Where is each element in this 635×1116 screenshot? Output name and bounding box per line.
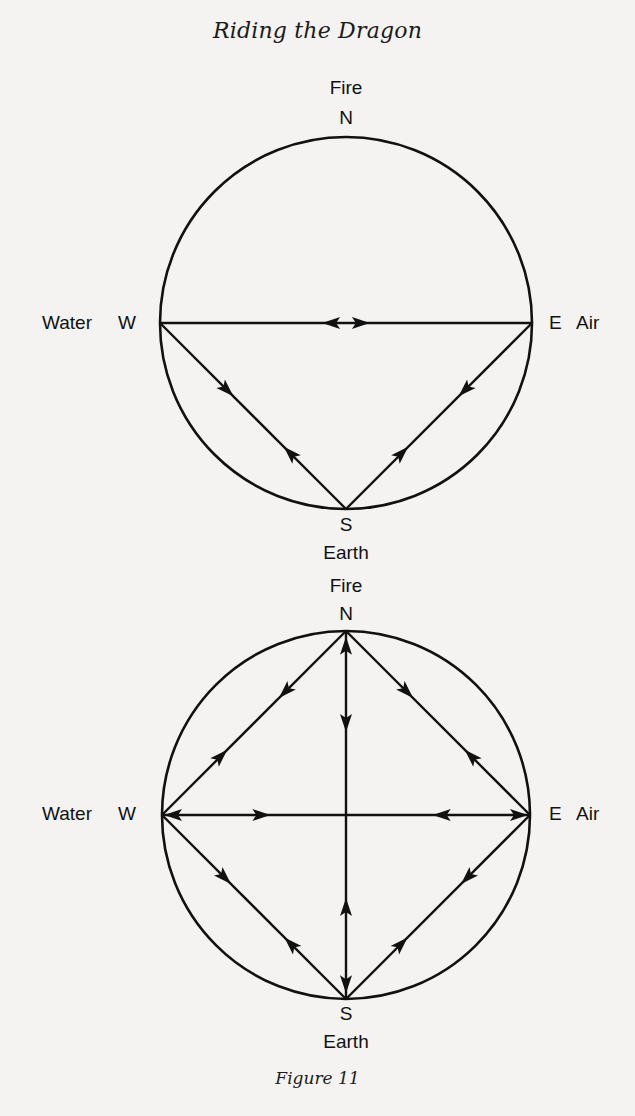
- diagram-2: [162, 631, 530, 999]
- element-flow-diagrams: [0, 0, 635, 1116]
- diagram-1-edge-E-S: [346, 323, 532, 509]
- diagram-2-edge-E-S: [346, 815, 530, 999]
- diagram-1: [160, 137, 532, 509]
- diagram-2-edge-W-S: [162, 815, 346, 999]
- diagram-2-edge-N-W: [162, 631, 346, 815]
- diagram-1-edge-W-S: [160, 323, 346, 509]
- book-page: Riding the Dragon Fire N Water W E Air S…: [0, 0, 635, 1116]
- figure-caption: Figure 11: [0, 1068, 635, 1088]
- diagram-2-edge-N-E: [346, 631, 530, 815]
